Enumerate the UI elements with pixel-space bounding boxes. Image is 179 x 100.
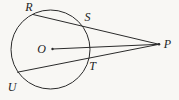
- point-label-R: R: [25, 1, 32, 13]
- point-label-O: O: [37, 43, 46, 55]
- circle-outline: [11, 10, 90, 89]
- point-label-U: U: [8, 81, 17, 93]
- center-point-dot: [51, 48, 53, 50]
- point-label-T: T: [89, 60, 96, 72]
- point-label-S: S: [85, 11, 91, 23]
- line-segment-O-P: [53, 44, 160, 49]
- geometry-diagram: R S O T U P: [0, 0, 179, 100]
- point-label-P: P: [164, 38, 171, 50]
- line-secant-R-S-P: [33, 15, 159, 45]
- external-point-dot: [158, 43, 161, 46]
